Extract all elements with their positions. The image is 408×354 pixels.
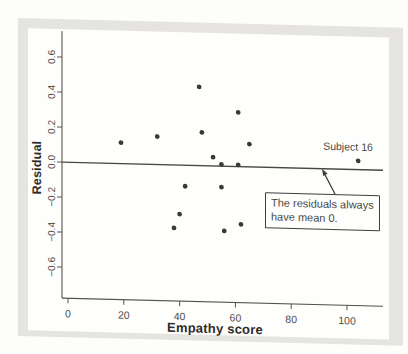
x-tick-label: 100 [338, 314, 356, 326]
x-axis-title: Empathy score [167, 320, 263, 337]
y-tick-label: 0.0 [46, 155, 57, 169]
figure-panel: Residual Empathy score Subject 16 The re… [18, 18, 403, 346]
y-tick-label: −0.2 [46, 187, 57, 207]
subject-16-label: Subject 16 [323, 140, 373, 153]
y-tick-label: 0.4 [46, 85, 57, 99]
x-tick-label: 20 [118, 309, 130, 321]
plot-area [28, 28, 389, 339]
y-tick-label: −0.6 [46, 257, 57, 277]
y-tick-label: 0.2 [46, 120, 57, 134]
callout-text-line2: have mean 0. [271, 211, 338, 225]
x-tick-label: 0 [65, 307, 71, 319]
callout-box: The residuals always have mean 0. [265, 192, 380, 230]
y-tick-label: −0.4 [46, 222, 57, 242]
textbook-page: Residual Empathy score Subject 16 The re… [0, 0, 408, 354]
callout-text-line1: The residuals always [271, 196, 374, 211]
y-tick-label: 0.6 [46, 50, 57, 64]
y-axis-title: Residual [30, 140, 44, 194]
x-tick-label: 40 [174, 310, 186, 322]
x-tick-label: 80 [285, 313, 297, 325]
x-tick-label: 60 [230, 311, 242, 323]
